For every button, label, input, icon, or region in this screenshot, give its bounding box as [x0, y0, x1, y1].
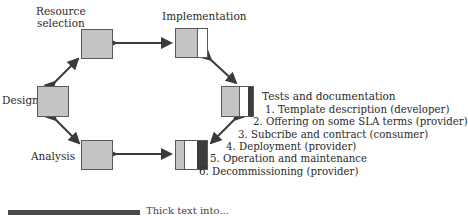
analysis-box	[81, 140, 113, 170]
step-1: 1. Template description (developer)	[265, 104, 449, 116]
tests-label: Tests and documentation	[262, 90, 396, 102]
implementation-label: Implementation	[162, 10, 246, 22]
arrow-design-resource	[55, 59, 78, 82]
arrow-implementation-tests	[211, 60, 236, 83]
design-label: Design	[2, 94, 39, 106]
arrow-design-analysis	[56, 120, 79, 143]
resource-selection-box	[81, 29, 113, 59]
step-3: 3. Subcribe and contract (consumer)	[238, 129, 428, 141]
resource-label-line2: selection	[36, 17, 86, 29]
operation-gray-segment	[176, 141, 184, 169]
legend-thick-bar	[8, 210, 140, 215]
arrow-tests-operation	[211, 120, 234, 143]
implementation-gray-segment	[176, 29, 197, 57]
implementation-white-segment	[197, 29, 207, 57]
legend-text: Thick text into...	[146, 205, 229, 216]
tests-gray-segment	[222, 87, 239, 116]
tests-dark-segment	[248, 87, 253, 116]
implementation-box	[175, 28, 208, 58]
step-6: 6. Decommissioning (provider)	[199, 166, 358, 178]
step-2: 2. Offering on some SLA terms (provider)	[253, 116, 468, 128]
tests-white-segment	[239, 87, 248, 116]
analysis-label: Analysis	[31, 150, 75, 162]
resource-label-line1: Resource	[36, 5, 86, 17]
resource-selection-label: Resource selection	[36, 5, 86, 29]
step-4: 4. Deployment (provider)	[226, 141, 356, 153]
operation-dark-segment	[197, 141, 207, 169]
operation-white-segment	[184, 141, 197, 169]
step-5: 5. Operation and maintenance	[210, 153, 367, 165]
tests-box	[221, 86, 254, 117]
design-box	[37, 86, 69, 117]
